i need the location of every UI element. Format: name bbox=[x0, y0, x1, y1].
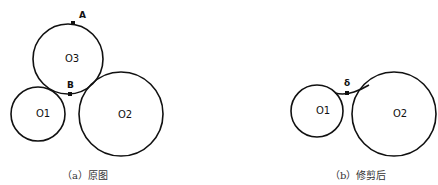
point-a-marker bbox=[71, 21, 75, 25]
circle-o1-trimmed-label: O1 bbox=[316, 105, 330, 116]
point-a-label: A bbox=[79, 10, 86, 20]
circle-o2-trimmed-label: O2 bbox=[393, 108, 407, 119]
point-b-label: B bbox=[67, 80, 74, 90]
circle-o2-label: O2 bbox=[118, 109, 132, 120]
point-b-marker bbox=[68, 92, 72, 96]
caption-a: （a）原图 bbox=[62, 167, 108, 182]
caption-b: （b）修剪后 bbox=[330, 167, 386, 182]
circle-o1-label: O1 bbox=[36, 108, 50, 119]
circle-o3-label: O3 bbox=[65, 53, 79, 64]
point-delta-label: δ bbox=[344, 78, 350, 88]
trimmed-bridge-curve bbox=[335, 85, 369, 94]
panel-a bbox=[11, 21, 163, 156]
point-delta-marker bbox=[345, 91, 349, 95]
panel-b bbox=[291, 72, 436, 156]
diagram-canvas: A B O3 O1 O2 δ O1 O2 bbox=[0, 0, 438, 185]
